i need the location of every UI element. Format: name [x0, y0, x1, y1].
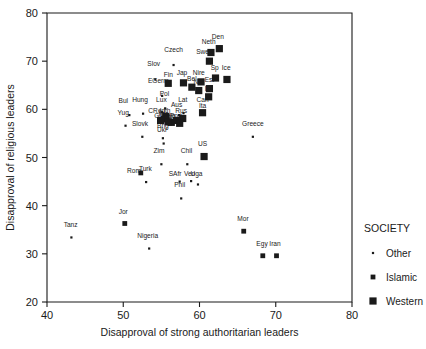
- legend: SOCIETYOtherIslamicWestern: [364, 222, 423, 307]
- y-tick-label: 50: [26, 152, 38, 164]
- point-label: Ice: [222, 64, 231, 71]
- data-point-western: [199, 109, 206, 116]
- point-label: Lux: [156, 96, 167, 103]
- point-label: Jor: [119, 208, 129, 215]
- y-tick-label: 30: [26, 248, 38, 260]
- point-label: Slovk: [132, 120, 149, 127]
- y-tick-label: 40: [26, 200, 38, 212]
- point-label: Phil: [174, 181, 186, 188]
- scatter-plot: 405060708020304050607080Disapproval of s…: [0, 0, 426, 349]
- data-point-islamic: [122, 221, 127, 226]
- y-tick-label: 20: [26, 296, 38, 308]
- data-point-other: [160, 163, 162, 165]
- y-tick-label: 80: [26, 7, 38, 19]
- data-point-other: [163, 142, 165, 144]
- point-label: Swe: [196, 48, 209, 55]
- data-point-islamic: [260, 253, 265, 258]
- point-label: Nor: [193, 78, 204, 85]
- point-label: US: [198, 140, 208, 147]
- data-point-western: [223, 76, 230, 83]
- point-label: Zim: [154, 147, 165, 154]
- x-axis-title: Disapproval of strong authoritarian lead…: [101, 326, 299, 338]
- x-tick-label: 40: [41, 309, 53, 321]
- data-point-other: [172, 64, 174, 66]
- legend-label-islamic: Islamic: [386, 272, 417, 283]
- data-point-islamic: [241, 229, 246, 234]
- data-point-western: [216, 45, 223, 52]
- legend-label-other: Other: [386, 248, 412, 259]
- point-label: Turk: [139, 165, 153, 172]
- point-label: Nigeria: [137, 232, 158, 240]
- data-point-other: [186, 163, 188, 165]
- x-tick-label: 60: [193, 309, 205, 321]
- point-label: Neth: [202, 38, 216, 45]
- point-label: Ita: [199, 102, 207, 109]
- y-tick-label: 60: [26, 103, 38, 115]
- point-label: Chil: [181, 147, 193, 154]
- point-label: Sp: [211, 64, 219, 72]
- data-point-other: [70, 236, 72, 238]
- point-label: Jap: [177, 69, 188, 77]
- x-tick-label: 80: [346, 309, 358, 321]
- data-point-western: [176, 120, 183, 127]
- x-tick-label: 50: [117, 309, 129, 321]
- data-point-other: [197, 183, 199, 185]
- point-label: SAfr: [169, 170, 183, 177]
- point-label: Uga: [190, 170, 202, 178]
- point-label: Ire: [205, 85, 213, 92]
- data-point-other: [124, 125, 126, 127]
- data-point-other: [148, 247, 150, 249]
- plot-frame: [47, 13, 352, 302]
- point-labels: CzechSlovEGermPolHungBulLuxLatCanYugCRep…: [64, 33, 281, 248]
- point-label: Egy: [256, 240, 268, 248]
- legend-marker-islamic: [371, 275, 376, 280]
- legend-label-western: Western: [386, 296, 423, 307]
- legend-marker-other: [372, 252, 374, 254]
- y-axis-title: Disapproval of religious leaders: [4, 84, 16, 231]
- data-point-other: [141, 136, 143, 138]
- point-label: Ukr: [157, 126, 168, 133]
- point-label: Est: [205, 76, 215, 83]
- data-point-other: [162, 137, 164, 139]
- data-point-western: [180, 79, 187, 86]
- data-points: [70, 45, 279, 258]
- data-point-other: [142, 113, 144, 115]
- point-label: Hung: [132, 96, 148, 104]
- data-point-other: [190, 180, 192, 182]
- point-label: Slov: [147, 60, 161, 67]
- x-tick-label: 70: [270, 309, 282, 321]
- point-label: Port: [170, 112, 182, 119]
- data-point-other: [145, 181, 147, 183]
- point-label: EGerm: [148, 77, 169, 84]
- data-point-islamic: [274, 253, 279, 258]
- data-point-western: [200, 153, 207, 160]
- point-label: Fin: [164, 71, 173, 78]
- point-label: Rom: [127, 167, 141, 174]
- chart-root: 405060708020304050607080Disapproval of s…: [0, 0, 426, 349]
- legend-marker-western: [369, 297, 376, 304]
- point-label: Iran: [269, 240, 281, 247]
- point-label: Bul: [118, 97, 128, 104]
- legend-title: SOCIETY: [364, 222, 410, 234]
- data-point-other: [252, 136, 254, 138]
- point-label: Greece: [242, 120, 264, 127]
- y-tick-label: 70: [26, 55, 38, 67]
- data-point-other: [180, 197, 182, 199]
- point-label: Czech: [164, 46, 183, 53]
- point-label: Tanz: [64, 221, 78, 228]
- point-label: Yug: [118, 109, 130, 117]
- point-label: Mor: [237, 215, 249, 222]
- data-point-western: [195, 87, 202, 94]
